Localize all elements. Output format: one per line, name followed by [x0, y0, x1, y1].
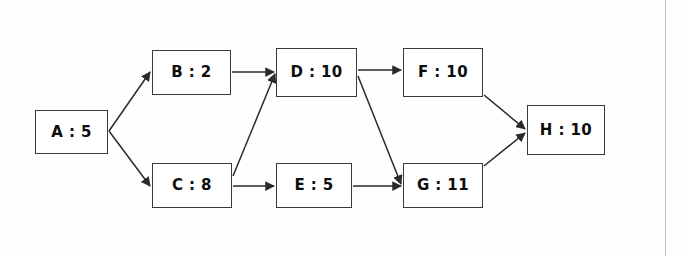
edge-a-to-b	[109, 72, 150, 131]
diagram-canvas: A : 5 B : 2 C : 8 D : 10 E : 5 F : 10 G …	[0, 0, 689, 256]
node-e[interactable]: E : 5	[276, 163, 352, 208]
node-e-label: E : 5	[294, 178, 333, 193]
node-c[interactable]: C : 8	[152, 163, 232, 208]
page-divider-rule	[665, 0, 666, 256]
node-b-label: B : 2	[171, 65, 211, 80]
node-g[interactable]: G : 11	[403, 163, 483, 208]
node-f-label: F : 10	[418, 65, 468, 80]
node-d-label: D : 10	[290, 65, 342, 80]
edge-c-to-d	[233, 74, 275, 176]
edge-d-to-g	[358, 76, 401, 184]
node-b[interactable]: B : 2	[152, 50, 231, 95]
node-f[interactable]: F : 10	[403, 48, 483, 97]
edge-f-to-h	[484, 95, 525, 129]
node-h[interactable]: H : 10	[527, 105, 605, 155]
node-a-label: A : 5	[51, 125, 92, 140]
node-h-label: H : 10	[540, 123, 592, 138]
node-c-label: C : 8	[172, 178, 212, 193]
node-g-label: G : 11	[417, 178, 469, 193]
edge-a-to-c	[109, 131, 150, 186]
node-d[interactable]: D : 10	[276, 48, 357, 97]
edge-g-to-h	[484, 133, 525, 166]
node-a[interactable]: A : 5	[35, 110, 108, 154]
